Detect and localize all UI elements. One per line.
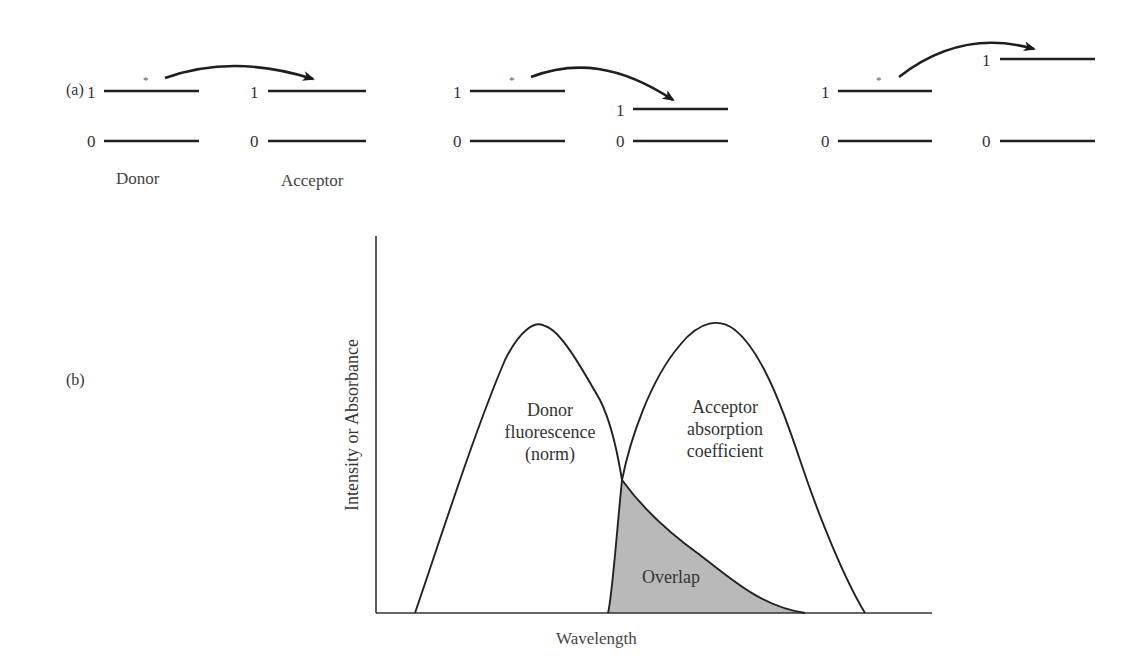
donor-label-line-2: fluorescence [495,421,605,443]
donor-label-line-3: (norm) [495,443,605,465]
y-axis-label: Intensity or Absorbance [342,339,363,511]
overlap-label: Overlap [636,566,706,588]
acceptor-label-line-1: Acceptor [670,396,780,418]
panel-b-label: (b) [66,372,85,388]
energy-transfer-arrow-icon [165,66,313,79]
figure-canvas [0,0,1133,672]
energy-diagram-higher [838,43,1095,141]
donor-curve-label: Donor fluorescence (norm) [495,399,605,465]
energy-diagram-lower [470,68,728,141]
x-axis-label: Wavelength [556,630,637,647]
acceptor-curve-label: Acceptor absorption coefficient [670,396,780,462]
donor-label-line-1: Donor [495,399,605,421]
spectral-overlap-plot [376,236,932,613]
acceptor-label-line-2: absorption [670,418,780,440]
energy-diagram-equal [104,66,366,141]
donor-fluorescence-curve [415,324,805,613]
acceptor-label-line-3: coefficient [670,440,780,462]
energy-transfer-arrow-icon [531,68,673,100]
